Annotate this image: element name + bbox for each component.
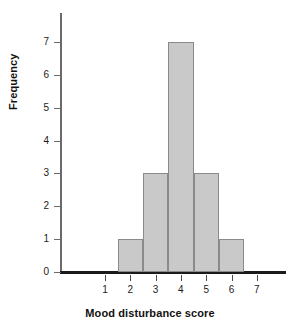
x-axis-title: Mood disturbance score bbox=[0, 307, 300, 319]
y-tick-mark bbox=[54, 108, 61, 109]
histogram-bar bbox=[168, 42, 193, 272]
x-tick-mark bbox=[232, 275, 233, 281]
histogram-bar bbox=[194, 173, 219, 272]
y-tick-mark bbox=[54, 75, 61, 76]
y-tick-mark bbox=[54, 42, 61, 43]
x-tick-mark bbox=[105, 275, 106, 281]
x-tick-label: 1 bbox=[97, 284, 113, 295]
y-tick-mark bbox=[54, 173, 61, 174]
x-tick-label: 7 bbox=[249, 284, 265, 295]
y-tick-mark bbox=[54, 206, 61, 207]
y-tick-label: 2 bbox=[35, 201, 49, 211]
y-tick-label: 5 bbox=[35, 103, 49, 113]
plot-area: 01234567 1234567 Frequency Mood disturba… bbox=[0, 0, 300, 329]
x-tick-label: 3 bbox=[148, 284, 164, 295]
x-tick-label: 5 bbox=[198, 284, 214, 295]
x-tick-mark bbox=[130, 275, 131, 281]
y-tick-label: 6 bbox=[35, 70, 49, 80]
x-tick-label: 6 bbox=[224, 284, 240, 295]
y-tick-label: 0 bbox=[35, 267, 49, 277]
x-tick-mark bbox=[257, 275, 258, 281]
histogram-bar bbox=[143, 173, 168, 272]
y-tick-mark bbox=[54, 272, 61, 273]
y-tick-label: 4 bbox=[35, 136, 49, 146]
y-tick-mark bbox=[54, 141, 61, 142]
x-tick-mark bbox=[206, 275, 207, 281]
x-tick-label: 4 bbox=[173, 284, 189, 295]
x-tick-mark bbox=[156, 275, 157, 281]
histogram-bar bbox=[118, 239, 143, 272]
y-tick-label: 7 bbox=[35, 37, 49, 47]
y-axis-title: Frequency bbox=[7, 53, 19, 110]
y-tick-mark bbox=[54, 239, 61, 240]
y-tick-label: 3 bbox=[35, 168, 49, 178]
x-tick-mark bbox=[181, 275, 182, 281]
histogram-bar bbox=[219, 239, 244, 272]
x-tick-label: 2 bbox=[122, 284, 138, 295]
y-axis-line bbox=[60, 13, 62, 272]
y-tick-label: 1 bbox=[35, 234, 49, 244]
histogram-chart: 01234567 1234567 Frequency Mood disturba… bbox=[0, 0, 300, 329]
